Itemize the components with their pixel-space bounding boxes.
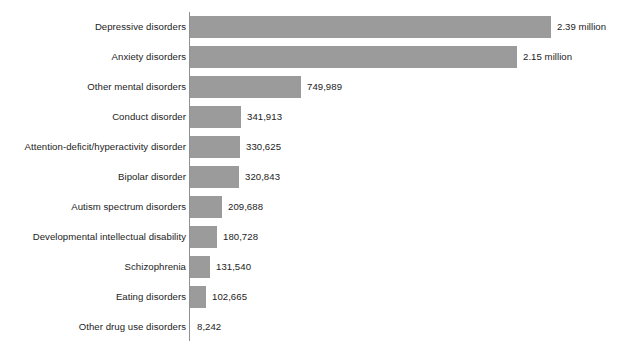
table-row: Attention-deficit/hyperactivity disorder… bbox=[0, 132, 617, 162]
category-label: Other drug use disorders bbox=[79, 312, 186, 342]
category-label: Attention-deficit/hyperactivity disorder bbox=[25, 132, 186, 162]
bar bbox=[190, 256, 210, 278]
table-row: Depressive disorders2.39 million bbox=[0, 12, 617, 42]
bar-value-label: 341,913 bbox=[247, 102, 282, 132]
category-label: Bipolar disorder bbox=[118, 162, 186, 192]
bar-value-label: 330,625 bbox=[246, 132, 281, 162]
category-label: Depressive disorders bbox=[95, 12, 186, 42]
bar bbox=[190, 16, 551, 38]
bar bbox=[190, 286, 206, 308]
bar-value-label: 180,728 bbox=[223, 222, 258, 252]
category-label: Schizophrenia bbox=[125, 252, 186, 282]
table-row: Bipolar disorder320,843 bbox=[0, 162, 617, 192]
bar bbox=[190, 196, 222, 218]
table-row: Eating disorders102,665 bbox=[0, 282, 617, 312]
plot-area: Depressive disorders2.39 millionAnxiety … bbox=[0, 0, 617, 352]
bar bbox=[190, 76, 301, 98]
bar-value-label: 209,688 bbox=[228, 192, 263, 222]
category-label: Eating disorders bbox=[116, 282, 186, 312]
bar-chart: Depressive disorders2.39 millionAnxiety … bbox=[0, 0, 617, 352]
category-label: Conduct disorder bbox=[112, 102, 186, 132]
table-row: Other drug use disorders8,242 bbox=[0, 312, 617, 342]
bar bbox=[190, 166, 239, 188]
bar-value-label: 749,989 bbox=[307, 72, 342, 102]
category-label: Developmental intellectual disability bbox=[33, 222, 186, 252]
bar-value-label: 8,242 bbox=[197, 312, 221, 342]
table-row: Schizophrenia131,540 bbox=[0, 252, 617, 282]
bar bbox=[190, 136, 240, 158]
bar bbox=[190, 46, 517, 68]
category-label: Anxiety disorders bbox=[112, 42, 186, 72]
table-row: Developmental intellectual disability180… bbox=[0, 222, 617, 252]
category-label: Autism spectrum disorders bbox=[71, 192, 186, 222]
table-row: Conduct disorder341,913 bbox=[0, 102, 617, 132]
bar bbox=[190, 226, 217, 248]
category-label: Other mental disorders bbox=[87, 72, 186, 102]
table-row: Anxiety disorders2.15 million bbox=[0, 42, 617, 72]
table-row: Other mental disorders749,989 bbox=[0, 72, 617, 102]
bar-value-label: 102,665 bbox=[212, 282, 247, 312]
bar-value-label: 2.15 million bbox=[523, 42, 572, 72]
table-row: Autism spectrum disorders209,688 bbox=[0, 192, 617, 222]
bar-value-label: 2.39 million bbox=[557, 12, 606, 42]
bar-value-label: 131,540 bbox=[216, 252, 251, 282]
bar bbox=[190, 106, 241, 128]
bar-value-label: 320,843 bbox=[245, 162, 280, 192]
